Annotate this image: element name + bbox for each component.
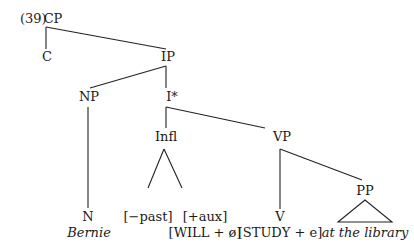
phrase-at-the-library: at the library	[322, 226, 409, 240]
feature-past: [−past]	[123, 210, 172, 224]
node-c: C	[42, 50, 52, 64]
word-bernie: Bernie	[67, 226, 111, 240]
morpheme-will: [WILL + ø]	[169, 226, 242, 240]
morpheme-study: [STUDY + e]	[238, 226, 323, 240]
node-cp: CP	[44, 12, 63, 26]
node-v: V	[275, 210, 284, 224]
node-pp: PP	[356, 184, 374, 198]
node-ip: IP	[161, 50, 175, 64]
node-np: NP	[79, 90, 99, 104]
syntax-tree-diagram: (39) CP C IP NP I* Infl VP PP N Bernie […	[0, 0, 414, 246]
node-i-star: I*	[166, 90, 178, 104]
node-vp: VP	[273, 130, 291, 144]
node-infl: Infl	[155, 130, 177, 144]
feature-aux: [+aux]	[183, 210, 228, 224]
node-n: N	[82, 210, 93, 224]
